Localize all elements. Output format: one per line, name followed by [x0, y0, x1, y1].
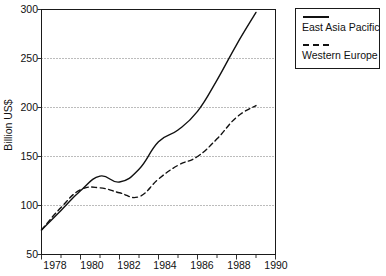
- legend-item-western-europe: Western Europe: [296, 37, 379, 65]
- legend-item-east-asia-pacific: East Asia Pacific: [296, 9, 379, 37]
- legend-label: Western Europe: [302, 49, 378, 61]
- x-axis-ticks: [38, 10, 276, 260]
- legend: East Asia Pacific Western Europe: [295, 8, 380, 69]
- chart-root: 300 250 200 150 100 50 Billion US$ 1978 …: [0, 0, 386, 276]
- series-line-east-asia-pacific: [42, 12, 257, 230]
- y-gridlines: [42, 59, 276, 206]
- series-line-western-europe: [42, 106, 257, 230]
- legend-label: East Asia Pacific: [302, 21, 380, 33]
